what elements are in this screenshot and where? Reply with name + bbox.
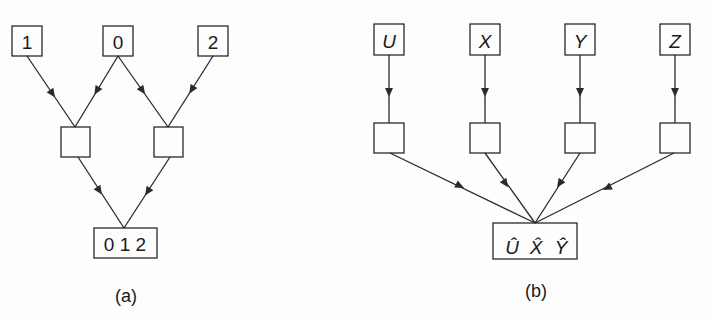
output-label-x-hat: X̂ bbox=[529, 237, 544, 258]
diagram-svg: 1 0 2 0 1 2 (a) U X Y Z Û X̂ Ŷ (b) bbox=[0, 0, 711, 322]
middle-box-right bbox=[154, 127, 183, 157]
input-label-u: U bbox=[382, 31, 396, 52]
output-label-u-hat: Û bbox=[505, 237, 519, 258]
output-label-a: 0 1 2 bbox=[104, 234, 146, 255]
input-label-y: Y bbox=[574, 31, 588, 52]
input-label-z: Z bbox=[668, 31, 682, 52]
caption-b: (b) bbox=[525, 281, 547, 301]
middle-box-x bbox=[470, 123, 500, 153]
input-label-0: 0 bbox=[113, 32, 124, 53]
middle-box-y bbox=[565, 123, 595, 153]
figure: 1 0 2 0 1 2 (a) U X Y Z Û X̂ Ŷ (b) bbox=[0, 0, 711, 322]
output-label-y-hat: Ŷ bbox=[555, 237, 569, 258]
input-label-x: X bbox=[478, 31, 493, 52]
middle-box-left bbox=[61, 127, 90, 157]
middle-box-u bbox=[374, 123, 404, 153]
input-label-2: 2 bbox=[208, 32, 219, 53]
middle-box-z bbox=[660, 123, 690, 153]
input-label-1: 1 bbox=[22, 32, 33, 53]
caption-a: (a) bbox=[115, 286, 137, 306]
